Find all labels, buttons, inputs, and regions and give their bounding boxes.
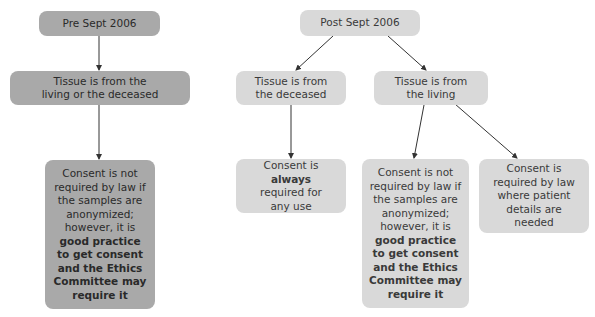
pre-consent-text: Consent is not required by law if the sa… bbox=[54, 167, 145, 233]
post-title: Post Sept 2006 bbox=[320, 16, 399, 30]
patient-details-node: Consent is required by law where patient… bbox=[479, 159, 589, 233]
pre-consent-node: Consent is not required by law if the sa… bbox=[45, 160, 155, 309]
deceased-consent-node: Consent is always required for any use bbox=[236, 159, 346, 213]
post-living-node: Tissue is from the living bbox=[374, 71, 488, 105]
pre-tissue-node: Tissue is from the living or the decease… bbox=[10, 71, 190, 105]
patient-details-text: Consent is required by law where patient… bbox=[491, 162, 577, 230]
living-consent-bold: good practice to get consent and the Eth… bbox=[369, 234, 462, 300]
living-consent-text: Consent is not required by law if the sa… bbox=[370, 166, 461, 232]
post-deceased-text: Tissue is from the deceased bbox=[250, 75, 332, 102]
pre-title: Pre Sept 2006 bbox=[63, 17, 137, 31]
flowchart: Pre Sept 2006 Tissue is from the living … bbox=[0, 0, 595, 317]
pre-tissue-text: Tissue is from the living or the decease… bbox=[40, 75, 160, 102]
pre-consent-bold: good practice to get consent and the Eth… bbox=[54, 235, 147, 301]
deceased-consent-text-b: required for any use bbox=[260, 186, 322, 212]
post-living-text: Tissue is from the living bbox=[388, 75, 474, 102]
living-consent-node: Consent is not required by law if the sa… bbox=[362, 159, 469, 308]
post-sept-2006-node: Post Sept 2006 bbox=[300, 10, 420, 36]
deceased-consent-bold: always bbox=[271, 173, 311, 185]
deceased-consent-text-a: Consent is bbox=[264, 159, 319, 171]
post-deceased-node: Tissue is from the deceased bbox=[236, 71, 346, 105]
pre-sept-2006-node: Pre Sept 2006 bbox=[39, 11, 160, 36]
